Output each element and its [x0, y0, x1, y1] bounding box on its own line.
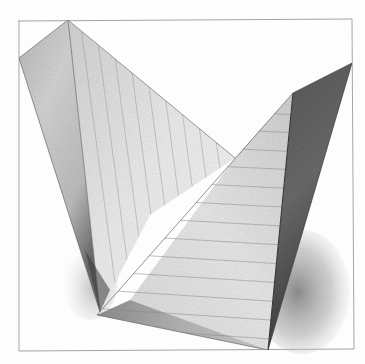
drawing-canvas: Pencil drawing of two intersecting pyram… [0, 0, 365, 364]
pencil-drawing [0, 0, 365, 364]
